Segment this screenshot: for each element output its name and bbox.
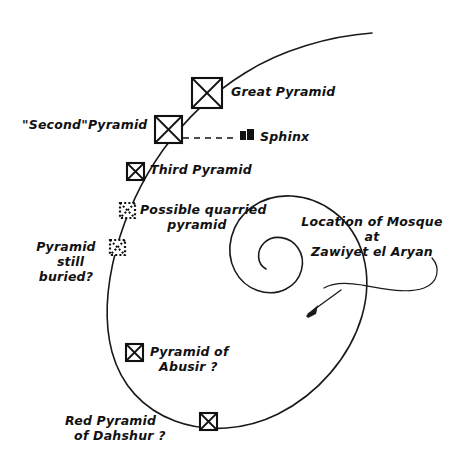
label-third-pyramid: Third Pyramid [150, 163, 252, 178]
label-abusir-pyramid: Pyramid of Abusir ? [150, 345, 229, 375]
marker-second-pyramid [155, 116, 182, 143]
marker-abusir-pyramid [126, 344, 143, 361]
arrow-icon [306, 290, 341, 318]
marker-third-pyramid [127, 163, 144, 180]
label-mosque-location: Location of Mosque at Zawiyet el Aryan [288, 215, 456, 259]
marker-pyramid-still-buried [110, 240, 125, 255]
label-pyramid-still-buried: Pyramid still buried? [25, 240, 107, 284]
pyramid-spiral-diagram: Great Pyramid "Second"Pyramid Sphinx Thi… [0, 0, 469, 474]
label-sphinx: Sphinx [260, 130, 309, 145]
label-possible-quarried-pyramid: Possible quarried pyramid [140, 203, 267, 233]
sphinx-glyph-icon [240, 129, 254, 140]
marker-possible-quarried-pyramid [120, 203, 135, 218]
marker-great-pyramid [192, 78, 222, 108]
label-dahshur-pyramid: Red Pyramid of Dahshur ? [65, 414, 166, 444]
mosque-pointer-curve [324, 258, 437, 291]
marker-dahshur-pyramid [200, 413, 217, 430]
label-second-pyramid: "Second"Pyramid [22, 118, 148, 133]
label-great-pyramid: Great Pyramid [231, 85, 335, 100]
